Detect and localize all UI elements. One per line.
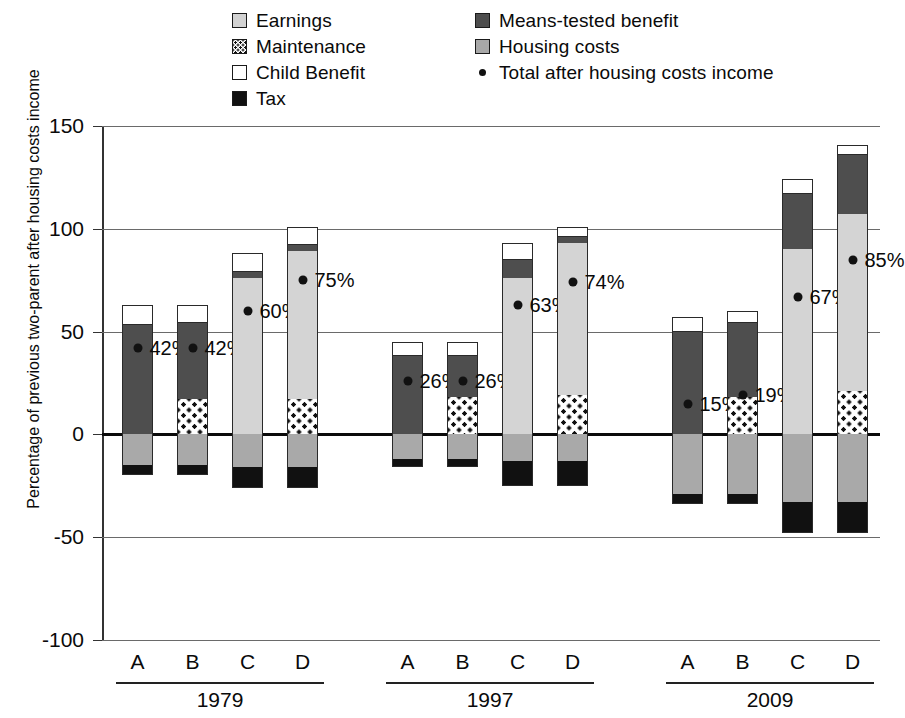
total-point-marker	[683, 399, 692, 408]
legend-item-earnings[interactable]: Earnings	[232, 8, 366, 33]
x-tick-label-1979-C: C	[240, 650, 255, 674]
bar-segment-tax	[782, 502, 813, 533]
bar-segment-tax	[232, 467, 263, 488]
bar-segment-earnings	[232, 278, 263, 434]
bar-2009-C[interactable]	[782, 179, 813, 533]
legend-item-label: Tax	[256, 89, 286, 108]
total-point-marker	[513, 300, 522, 309]
bar-segment-means-tested	[502, 260, 533, 279]
group-rule-1997	[386, 682, 594, 684]
legend-item-maintenance[interactable]: Maintenance	[232, 34, 366, 59]
group-label-1997: 1997	[467, 688, 514, 712]
bar-1979-A[interactable]	[122, 305, 153, 476]
y-tick-mark	[93, 126, 102, 127]
legend-item-tax[interactable]: Tax	[232, 86, 366, 111]
housing-costs-swatch-icon	[475, 39, 490, 54]
gridline--50	[102, 537, 880, 538]
bar-segment-means-tested	[287, 245, 318, 251]
legend-item-means-tested[interactable]: Means-tested benefit	[475, 8, 774, 33]
bar-segment-housing-costs	[557, 434, 588, 461]
y-axis-line	[102, 126, 104, 640]
bar-1997-D[interactable]	[557, 227, 588, 486]
bar-segment-tax	[727, 494, 758, 504]
bar-segment-housing-costs	[287, 434, 318, 467]
legend-item-housing-costs[interactable]: Housing costs	[475, 34, 774, 59]
group-rule-1979	[116, 682, 324, 684]
legend-column-right: Means-tested benefitHousing costsTotal a…	[475, 8, 774, 86]
total-point-marker	[793, 292, 802, 301]
y-tick-mark	[93, 537, 102, 538]
bar-segment-tax	[447, 459, 478, 467]
bar-segment-tax	[287, 467, 318, 488]
bar-segment-child-benefit	[502, 243, 533, 259]
y-axis-label: Percentage of previous two-parent after …	[25, 19, 43, 559]
bar-segment-child-benefit	[177, 305, 208, 324]
y-tick-mark	[93, 229, 102, 230]
total-point-label: 85%	[865, 248, 905, 271]
total-point-marker	[298, 276, 307, 285]
bar-segment-housing-costs	[122, 434, 153, 465]
y-tick-label: 50	[0, 320, 84, 344]
bar-1997-C[interactable]	[502, 243, 533, 486]
x-tick-label-1979-A: A	[130, 650, 144, 674]
zero-baseline	[102, 433, 880, 436]
legend-item-label: Maintenance	[256, 37, 366, 56]
gridline-150	[102, 126, 880, 127]
legend-item-child-benefit[interactable]: Child Benefit	[232, 60, 366, 85]
x-tick-label-1979-B: B	[185, 650, 199, 674]
bar-2009-B[interactable]	[727, 311, 758, 504]
total-point-marker	[738, 391, 747, 400]
chart-legend: EarningsMaintenanceChild BenefitTax Mean…	[232, 8, 852, 108]
bar-segment-tax	[837, 502, 868, 533]
group-rule-2009	[666, 682, 874, 684]
x-tick-label-2009-A: A	[680, 650, 694, 674]
bar-segment-means-tested	[837, 155, 868, 215]
bar-1997-B[interactable]	[447, 342, 478, 467]
x-axis-line	[102, 640, 880, 641]
y-tick-label: -50	[0, 525, 84, 549]
bar-segment-means-tested	[392, 356, 423, 434]
tax-swatch-icon	[232, 91, 247, 106]
legend-column-left: EarningsMaintenanceChild BenefitTax	[232, 8, 366, 112]
total-point-marker	[568, 278, 577, 287]
bar-segment-tax	[122, 465, 153, 475]
y-tick-mark	[93, 332, 102, 333]
bar-segment-earnings	[557, 243, 588, 395]
total-point-label: 74%	[585, 271, 625, 294]
bar-segment-housing-costs	[232, 434, 263, 467]
total-point-marker	[458, 376, 467, 385]
bar-segment-means-tested	[122, 325, 153, 434]
bar-segment-housing-costs	[502, 434, 533, 461]
y-tick-label: -100	[0, 628, 84, 652]
bar-1997-A[interactable]	[392, 342, 423, 467]
bar-segment-child-benefit	[727, 311, 758, 323]
bar-segment-maintenance	[837, 391, 868, 434]
bar-segment-earnings	[287, 251, 318, 399]
x-tick-label-1997-B: B	[455, 650, 469, 674]
bar-segment-means-tested	[557, 237, 588, 243]
bar-segment-maintenance	[727, 397, 758, 434]
bar-segment-tax	[672, 494, 703, 504]
means-tested-swatch-icon	[475, 13, 490, 28]
bar-2009-D[interactable]	[837, 145, 868, 534]
x-tick-label-1997-C: C	[510, 650, 525, 674]
bar-segment-housing-costs	[727, 434, 758, 494]
bar-segment-means-tested	[177, 323, 208, 399]
bar-segment-maintenance	[287, 399, 318, 434]
bar-2009-A[interactable]	[672, 317, 703, 504]
legend-item-total[interactable]: Total after housing costs income	[475, 60, 774, 85]
bar-segment-child-benefit	[557, 227, 588, 237]
bar-segment-means-tested	[727, 323, 758, 397]
x-tick-label-2009-D: D	[845, 650, 860, 674]
y-tick-label: 150	[0, 114, 84, 138]
bar-1979-B[interactable]	[177, 305, 208, 476]
bar-segment-tax	[557, 461, 588, 486]
bar-segment-means-tested	[232, 272, 263, 278]
bar-1979-D[interactable]	[287, 227, 318, 488]
gridline-50	[102, 332, 880, 333]
bar-1979-C[interactable]	[232, 253, 263, 487]
bar-segment-earnings	[782, 249, 813, 434]
total-point-marker	[848, 255, 857, 264]
bar-segment-housing-costs	[837, 434, 868, 502]
total-point-label: 75%	[315, 269, 355, 292]
